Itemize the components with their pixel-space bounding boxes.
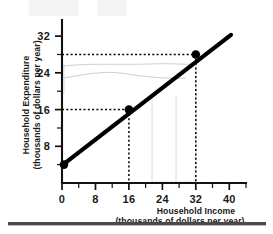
data-point-a (125, 105, 134, 114)
x-tick-label-4: 32 (189, 193, 202, 205)
x-tick-label-2: 16 (123, 193, 136, 205)
x-tick-label-3: 24 (156, 193, 169, 205)
x-tick-label-1: 8 (92, 193, 98, 205)
x-tick-label-0: 0 (59, 193, 65, 205)
y-axis-title-line1: Household Expenditure (21, 56, 31, 155)
y-tick-label-3: 32 (37, 30, 50, 42)
chart-svg: 8 16 24 32 0 8 16 24 32 40 Household Exp… (0, 0, 273, 234)
x-axis-tick-labels: 0 8 16 24 32 40 (59, 193, 236, 205)
y-axis-title-line2: (thousands of dollars per year) (32, 40, 42, 169)
x-tick-label-5: 40 (223, 193, 236, 205)
y-tick-label-0: 8 (44, 140, 50, 152)
y-axis-title: Household Expenditure (thousands of doll… (21, 40, 42, 169)
scan-artifact-top (0, 0, 273, 16)
data-point-intercept (60, 160, 69, 169)
bottom-divider (8, 222, 266, 225)
data-point-b (192, 50, 201, 59)
x-axis-title-line1: Household Income (157, 206, 236, 216)
chart-figure: 8 16 24 32 0 8 16 24 32 40 Household Exp… (0, 0, 273, 234)
scan-artifacts (64, 64, 196, 182)
